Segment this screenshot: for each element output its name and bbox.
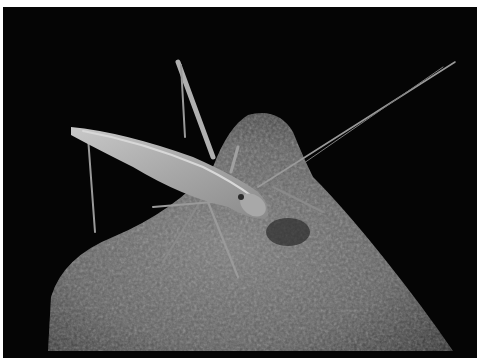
photograph: [3, 7, 477, 358]
katydid-on-rock-illustration: [3, 7, 477, 358]
